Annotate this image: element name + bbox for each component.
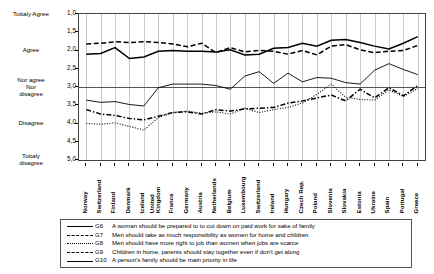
x-axis-label: Poland <box>312 193 318 213</box>
series-line-g6 <box>86 37 418 59</box>
x-tick-mark <box>128 163 129 166</box>
legend-code: G9 <box>95 249 112 255</box>
legend-label: A person's family should be main priorit… <box>112 257 237 263</box>
chart-legend: G6A woman should be prepared to to cut d… <box>60 219 412 268</box>
x-tick-mark <box>244 163 245 166</box>
legend-item: G10A person's family should be main prio… <box>61 256 411 265</box>
x-tick-mark <box>143 163 144 166</box>
x-axis-label: Austria <box>197 192 203 213</box>
legend-item: G6A woman should be prepared to to cut d… <box>61 222 411 231</box>
x-tick-mark <box>417 163 418 166</box>
legend-item: G8Men should have more right to job than… <box>61 239 411 248</box>
x-tick-mark <box>402 163 403 166</box>
x-axis-label: Hungary <box>283 188 289 213</box>
x-axis-label: Germany <box>182 187 188 213</box>
x-tick-mark <box>157 163 158 166</box>
legend-code: G6 <box>95 223 112 229</box>
x-tick-mark <box>258 163 259 166</box>
x-tick-mark <box>186 163 187 166</box>
x-axis-label: Switzerland <box>96 179 102 213</box>
y-axis-tick-labels: 1,01,52,02,53,03,54,04,55,0 <box>62 0 78 180</box>
data-series-layer <box>79 14 425 160</box>
legend-line-sample <box>65 248 95 256</box>
x-tick-mark <box>215 163 216 166</box>
legend-item: G7Men should take as much responsibility… <box>61 231 411 240</box>
x-axis-label: Slovakia <box>341 188 347 213</box>
x-axis-label: Slovenia <box>326 188 332 213</box>
x-tick-mark <box>114 163 115 166</box>
x-tick-mark <box>359 163 360 166</box>
y-category-label: Nor agreeNordisagree <box>0 76 62 97</box>
legend-label: A woman should be prepared to to cut dow… <box>112 223 315 229</box>
x-axis-label: Norway <box>81 191 87 213</box>
x-axis-label: Greece <box>413 192 419 213</box>
series-line-g10 <box>86 64 418 106</box>
x-axis-label: Spain <box>384 196 390 213</box>
legend-item: G9Children in home, parents should stay … <box>61 248 411 257</box>
x-axis-label: Netherlands <box>211 178 217 213</box>
legend-line-sample <box>65 222 95 230</box>
x-axis-label: Ukraine <box>370 191 376 213</box>
x-tick-mark <box>301 163 302 166</box>
chart-figure: Tottaly AgreeAgreeNor agreeNordisagreeDi… <box>0 0 434 274</box>
series-line-g8 <box>86 84 418 130</box>
legend-line-sample <box>65 239 95 247</box>
x-tick-mark <box>273 163 274 166</box>
x-tick-mark <box>201 163 202 166</box>
x-axis-label: Estonia <box>355 191 361 213</box>
x-axis-label: Czech Rep. <box>297 180 303 213</box>
x-axis-label: Ireland <box>269 193 275 213</box>
legend-code: G8 <box>95 240 112 246</box>
y-axis-category-labels: Tottaly AgreeAgreeNor agreeNordisagreeDi… <box>0 0 62 180</box>
x-tick-mark <box>172 163 173 166</box>
legend-code: G7 <box>95 232 112 238</box>
x-tick-mark <box>287 163 288 166</box>
legend-line-sample <box>65 231 95 239</box>
x-axis-label: France <box>168 193 174 213</box>
series-line-g9 <box>86 86 418 120</box>
x-tick-mark <box>316 163 317 166</box>
x-axis-label: Belgium <box>225 189 231 213</box>
y-category-label: Tottalydisagree <box>0 152 62 166</box>
legend-label: Men should have more right to job than w… <box>112 240 298 246</box>
x-tick-mark <box>85 163 86 166</box>
legend-line-sample <box>65 257 95 265</box>
x-tick-mark <box>100 163 101 166</box>
plot-area <box>78 13 426 161</box>
x-axis-country-labels: NorwaySwitzerlandFinlandDenmarkIcelandUn… <box>78 163 426 217</box>
x-tick-mark <box>229 163 230 166</box>
x-axis-label: Denmark <box>124 187 130 213</box>
x-axis-label: Portugal <box>398 188 404 213</box>
x-axis-label: Luxembourg <box>240 176 246 213</box>
legend-code: G10 <box>95 257 112 263</box>
y-category-label: Agree <box>0 46 62 53</box>
x-axis-label: Finland <box>110 191 116 213</box>
x-axis-label: Iceland <box>139 192 145 213</box>
legend-label: Children in home, parents should stay to… <box>112 249 299 255</box>
x-tick-mark <box>388 163 389 166</box>
y-category-label: Disagree <box>0 119 62 126</box>
legend-label: Men should take as much responsibility a… <box>112 232 308 238</box>
y-category-label: Tottaly Agree <box>0 10 62 17</box>
x-tick-mark <box>330 163 331 166</box>
x-tick-mark <box>374 163 375 166</box>
x-axis-label: UnitedKingdom <box>149 187 160 213</box>
x-axis-label: Switzerland <box>254 179 260 213</box>
x-tick-mark <box>345 163 346 166</box>
